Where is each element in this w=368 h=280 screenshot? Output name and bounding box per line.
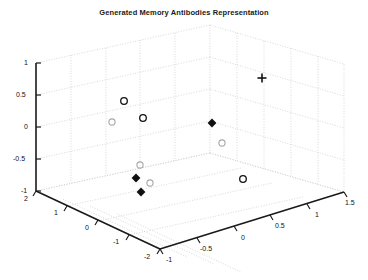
x-tick-label: -1	[166, 256, 172, 263]
y-axis-ticks	[33, 191, 160, 254]
x-axis-ticks	[160, 192, 347, 254]
data-point-open-circle	[121, 98, 247, 183]
x-tick-label: 0.5	[275, 222, 285, 229]
z-tick-label: 0.5	[16, 91, 26, 98]
y-tick-label: -1	[113, 238, 119, 245]
figure-canvas: Generated Memory Antibodies Representati…	[0, 0, 368, 280]
y-tick-label: 0	[85, 224, 89, 231]
grid-wall-right	[210, 25, 344, 192]
x-tick-label: 0	[241, 234, 245, 241]
z-tick-label: 1	[24, 59, 28, 66]
data-point-plus	[258, 74, 267, 83]
x-tick-label: 1.5	[345, 199, 355, 206]
x-tick-label: 1	[315, 211, 319, 218]
axes-3d	[0, 0, 368, 280]
x-tick-label: -0.5	[200, 245, 212, 252]
data-point-faint-circle	[109, 119, 225, 186]
y-tick-label: 1	[54, 209, 58, 216]
axis-lines	[36, 63, 344, 249]
z-tick-label: 0	[24, 123, 28, 130]
grid-wall-left	[36, 25, 210, 191]
y-tick-label: -2	[144, 253, 150, 260]
z-tick-label: -0.5	[13, 155, 25, 162]
z-tick-label: -1	[21, 187, 27, 194]
data-point-filled-diamond	[132, 119, 217, 197]
y-tick-label: 2	[24, 195, 28, 202]
